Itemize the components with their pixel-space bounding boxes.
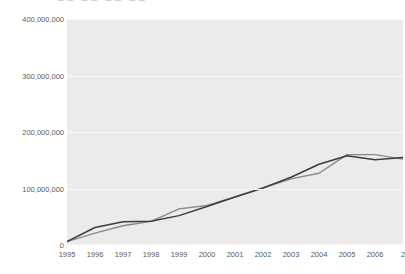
x-axis-tick-label: 1996 bbox=[87, 250, 104, 259]
plot-area bbox=[67, 19, 403, 245]
line-series-2 bbox=[67, 155, 403, 242]
x-axis-tick-label: 2 bbox=[401, 250, 405, 259]
y-axis-tick-label: 100,000,000 bbox=[22, 184, 64, 193]
x-axis-tick-label: 2003 bbox=[283, 250, 300, 259]
y-axis-tick-label: 300,000,000 bbox=[22, 71, 64, 80]
x-axis-tick-label: 1998 bbox=[143, 250, 160, 259]
x-axis-tick-label: 2002 bbox=[255, 250, 272, 259]
page-title: ■■ ■■ ■■ ■■ bbox=[57, 0, 147, 4]
x-axis-tick-label: 2001 bbox=[227, 250, 244, 259]
x-axis-tick-label: 2000 bbox=[199, 250, 216, 259]
gridline bbox=[67, 132, 403, 133]
gridline bbox=[67, 189, 403, 190]
x-axis-tick-label: 1997 bbox=[115, 250, 132, 259]
x-axis-tick-label: 2004 bbox=[311, 250, 328, 259]
gridline bbox=[67, 244, 403, 245]
x-axis-tick-label: 2005 bbox=[339, 250, 356, 259]
y-axis-tick-label: 0 bbox=[60, 241, 64, 250]
x-axis-tick-label: 2006 bbox=[367, 250, 384, 259]
chart-title-clipped: ■■ ■■ ■■ ■■ bbox=[0, 0, 403, 9]
x-axis-labels: 1995199619971998199920002001200220032004… bbox=[67, 250, 403, 264]
gridline bbox=[67, 19, 403, 20]
line-series-1 bbox=[67, 156, 403, 242]
x-axis-tick-label: 1999 bbox=[171, 250, 188, 259]
gridline bbox=[67, 76, 403, 77]
y-axis-tick-label: 400,000,000 bbox=[22, 15, 64, 24]
x-axis-tick-label: 1995 bbox=[59, 250, 76, 259]
y-axis-tick-label: 200,000,000 bbox=[22, 128, 64, 137]
